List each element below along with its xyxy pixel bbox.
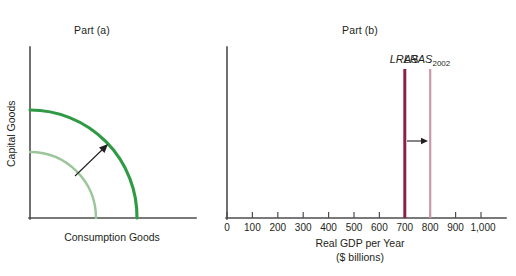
tick-label-1000: 1,000	[470, 222, 495, 233]
lras-2002-label-subscript: 2002	[432, 59, 450, 68]
economics-figure: Part (a) Capital Goods Consumption Goods…	[0, 0, 516, 276]
tick-label-900: 900	[447, 222, 464, 233]
part-a-plot: Capital Goods Consumption Goods	[0, 0, 220, 276]
lras-2002-label: LRAS2002	[404, 53, 451, 68]
panel-a-title: Part (a)	[0, 24, 202, 36]
tick-label-600: 600	[371, 222, 388, 233]
part-b-plot: 0 100 200 300 400 500 600 700 800 900 1,…	[220, 0, 516, 276]
growth-arrow-shaft	[75, 148, 104, 176]
shift-arrow-head	[421, 138, 428, 144]
tick-label-0: 0	[224, 222, 230, 233]
tick-label-400: 400	[320, 222, 337, 233]
part-a-y-axis-label: Capital Goods	[5, 100, 17, 167]
lras-2002-label-main: LRAS	[404, 53, 433, 65]
tick-label-500: 500	[346, 222, 363, 233]
tick-label-300: 300	[295, 222, 312, 233]
tick-label-200: 200	[269, 222, 286, 233]
part-b-x-tick-labels: 0 100 200 300 400 500 600 700 800 900 1,…	[224, 222, 496, 233]
panel-b-title: Part (b)	[212, 24, 508, 36]
panel-part-b: Part (b) 0 10	[220, 0, 516, 276]
part-a-x-axis-label: Consumption Goods	[64, 231, 160, 243]
ppc-curve-shifted	[30, 110, 137, 218]
panel-part-a: Part (a) Capital Goods Consumption Goods	[0, 0, 220, 276]
part-b-x-axis-label-line1: Real GDP per Year	[315, 237, 405, 249]
tick-label-700: 700	[396, 222, 413, 233]
part-b-x-axis-label-line2: ($ billions)	[336, 251, 384, 263]
tick-label-800: 800	[422, 222, 439, 233]
ppc-curve-initial	[30, 152, 96, 218]
tick-label-100: 100	[244, 222, 261, 233]
part-b-x-ticks	[227, 212, 481, 218]
